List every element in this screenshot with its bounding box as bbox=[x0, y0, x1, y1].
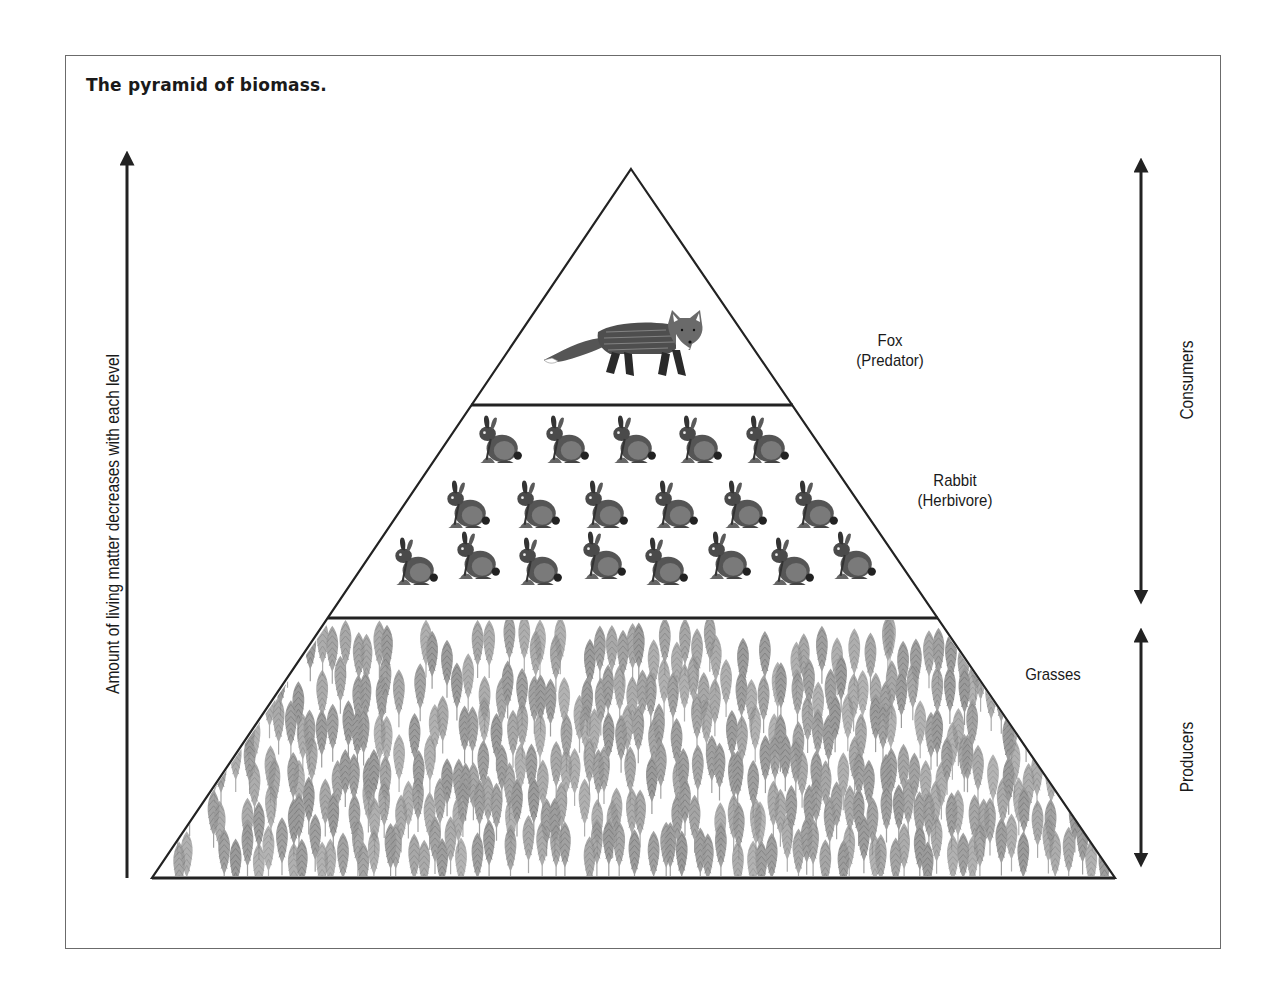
consumers-label: Consumers bbox=[1177, 340, 1198, 419]
rabbit-icon bbox=[479, 416, 522, 463]
rabbit-icon bbox=[546, 416, 589, 463]
rabbit-role: (Herbivore) bbox=[893, 491, 1016, 511]
rabbit-icon bbox=[746, 416, 789, 463]
rabbit-icon bbox=[585, 481, 628, 528]
rabbit-icon bbox=[395, 538, 438, 585]
rabbit-icon bbox=[517, 481, 560, 528]
biomass-axis-label: Amount of living matter decreases with e… bbox=[103, 354, 124, 694]
rabbit-icon bbox=[679, 416, 722, 463]
rabbit-icon bbox=[655, 481, 698, 528]
fox-role: (Predator) bbox=[828, 351, 951, 371]
rabbit-icon bbox=[447, 481, 490, 528]
rabbit-icon bbox=[708, 532, 751, 579]
rabbit-icon bbox=[613, 416, 656, 463]
fox-name: Fox bbox=[828, 331, 951, 351]
rabbit-icon-group bbox=[395, 416, 876, 585]
rabbit-label: Rabbit (Herbivore) bbox=[893, 471, 1016, 511]
rabbit-name: Rabbit bbox=[893, 471, 1016, 491]
producers-label: Producers bbox=[1177, 722, 1198, 793]
biomass-pyramid-diagram bbox=[0, 0, 1285, 1000]
rabbit-icon bbox=[645, 538, 688, 585]
fox-label: Fox (Predator) bbox=[828, 331, 951, 371]
fox-icon bbox=[544, 310, 703, 376]
rabbit-icon bbox=[833, 532, 876, 579]
rabbit-icon bbox=[583, 532, 626, 579]
rabbit-icon bbox=[724, 481, 767, 528]
rabbit-icon bbox=[457, 532, 500, 579]
rabbit-icon bbox=[519, 538, 562, 585]
rabbit-icon bbox=[795, 481, 838, 528]
rabbit-icon bbox=[771, 538, 814, 585]
grasses-label: Grasses bbox=[991, 665, 1114, 685]
grasses-name: Grasses bbox=[991, 665, 1114, 685]
